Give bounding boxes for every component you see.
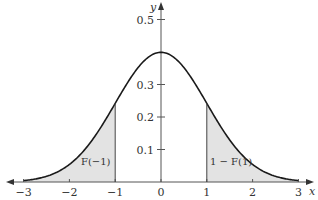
x-tick-label: −3 [15,186,31,199]
y-tick-label: 0.5 [137,14,155,27]
y-axis [158,2,164,182]
x-tick-label: −2 [61,186,77,199]
shaded-region-0 [24,103,116,182]
y-axis-label: y [149,1,157,14]
y-tick-label: 0.2 [137,111,155,124]
normal-distribution-chart: −3−2−10123 0.10.20.30.5 x y F(−1) 1 − F(… [0,0,318,200]
shaded-region-1 [207,103,299,182]
y-axis-up-arrow-icon [158,2,164,10]
y-tick-label: 0.3 [137,79,155,92]
y-tick-label: 0.1 [137,144,155,157]
x-axis-label: x [309,185,316,198]
right-tail-label: 1 − F(1) [210,156,252,167]
x-tick-label: 0 [158,186,165,199]
x-tick-label: 3 [295,186,302,199]
left-tail-label: F(−1) [81,156,111,167]
x-axis-left-arrow-icon [6,179,14,185]
x-tick-label: 1 [203,186,210,199]
x-tick-label: 2 [249,186,256,199]
x-tick-label: −1 [107,186,123,199]
